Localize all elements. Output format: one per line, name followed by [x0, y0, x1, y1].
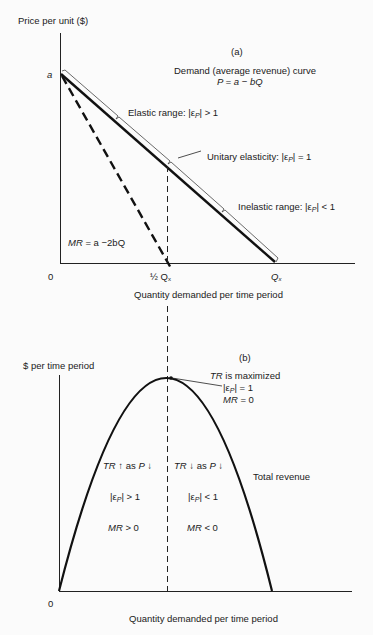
- mr-equation-label: MR = a −2bQ: [68, 237, 125, 248]
- right-region-line1: TR ↓ as P ↓: [174, 460, 223, 471]
- right-region-mr: MR < 0: [187, 522, 218, 533]
- panel-b-origin-label: 0: [48, 598, 53, 609]
- tr-max-elasticity-label: |εP| = 1: [223, 382, 253, 394]
- intercept-a-label: a: [47, 69, 52, 80]
- total-revenue-label: Total revenue: [253, 471, 310, 482]
- elasticity-bracket: [62, 70, 278, 262]
- tr-max-mr-label: MR = 0: [223, 394, 254, 405]
- panel-a-y-axis-label: Price per unit ($): [18, 15, 88, 26]
- panel-a: Price per unit ($) a 0 (a) Demand (avera…: [18, 15, 355, 300]
- unitary-pointer: [178, 151, 201, 158]
- qx-label: Qx: [271, 271, 282, 282]
- panel-a-origin-label: 0: [48, 271, 53, 282]
- panel-a-label: (a): [231, 46, 243, 57]
- half-qx-label: ½ Qx: [150, 271, 171, 282]
- demand-title: Demand (average revenue) curve: [174, 65, 316, 76]
- elastic-range-label: Elastic range: |εP| > 1: [128, 107, 218, 119]
- panel-b: $ per time period (b) TR is maximized |ε…: [23, 352, 352, 624]
- inelastic-range-label: Inelastic range: |εP| < 1: [238, 201, 335, 213]
- left-region-mr: MR > 0: [108, 522, 139, 533]
- left-region-line1: TR ↑ as P ↓: [103, 460, 152, 471]
- diagram-canvas: Price per unit ($) a 0 (a) Demand (avera…: [0, 0, 373, 635]
- demand-equation: P = a − bQ: [217, 76, 263, 87]
- panel-b-x-axis-label: Quantity demanded per time period: [129, 613, 278, 624]
- tr-maximized-label: TR is maximized: [210, 370, 280, 381]
- panel-a-x-axis-label: Quantity demanded per time period: [134, 289, 283, 300]
- panel-b-label: (b): [239, 352, 251, 363]
- right-region-elasticity: |εP| < 1: [188, 491, 218, 503]
- left-region-elasticity: |εP| > 1: [110, 491, 140, 503]
- panel-b-y-axis-label: $ per time period: [23, 360, 94, 371]
- unitary-elasticity-label: Unitary elasticity: |εP| = 1: [207, 151, 311, 163]
- total-revenue-curve: [59, 378, 272, 591]
